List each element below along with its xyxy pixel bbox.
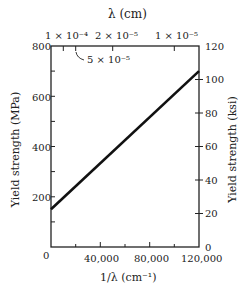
- y2-tick-label: 80: [205, 109, 218, 119]
- y2-tick-label: 60: [205, 142, 218, 152]
- bottom-ticks: [76, 242, 175, 247]
- y-tick-label: 800: [32, 42, 51, 52]
- y-tick-label: 600: [32, 93, 51, 103]
- x-tick-label: 80,000: [134, 254, 169, 264]
- y-tick-label: 0: [43, 251, 49, 261]
- x-tick-label: 40,000: [84, 254, 119, 264]
- annotation-label: 5 × 10⁻⁵: [87, 55, 130, 65]
- y2-tick-label: 40: [205, 176, 218, 186]
- top-tick-label: 2 × 10⁻⁵: [95, 31, 138, 41]
- top-ticks: [63, 46, 174, 51]
- data-line-yield-strength: [51, 71, 199, 209]
- y2-tick-label: 120: [205, 42, 224, 52]
- x-tick-label: 120,000: [181, 254, 222, 264]
- top-axis-title: λ (cm): [108, 8, 147, 20]
- y-tick-label: 400: [32, 143, 51, 153]
- y-axis-title: Yield strength (MPa): [9, 90, 22, 210]
- top-tick-label: 1 × 10⁻⁴: [45, 31, 88, 41]
- y2-axis-title: Yield strength (ksi): [226, 90, 239, 210]
- annotation-leader: [76, 52, 84, 60]
- y2-tick-label: 100: [205, 75, 224, 85]
- y-tick-label: 200: [32, 193, 51, 203]
- x-axis-title: 1/λ (cm⁻¹): [100, 272, 157, 283]
- y2-tick-label: 0: [205, 243, 211, 253]
- plot-frame: [51, 46, 199, 247]
- y2-tick-label: 20: [205, 209, 218, 219]
- top-tick-label: 1 × 10⁻⁵: [155, 31, 198, 41]
